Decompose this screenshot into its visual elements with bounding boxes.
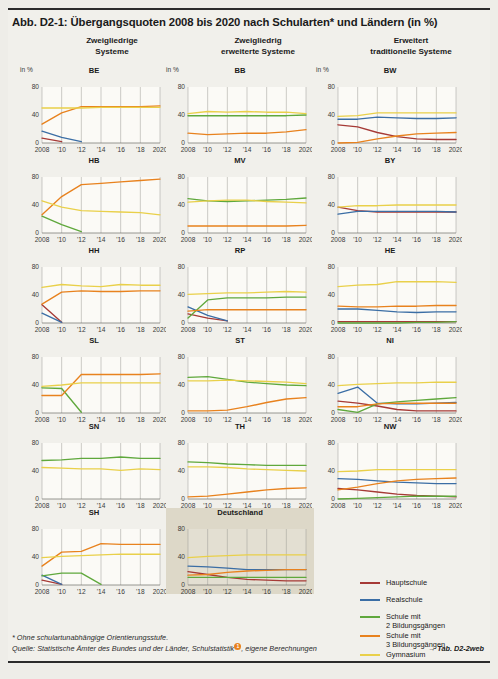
svg-text:2020: 2020 — [449, 236, 462, 243]
chart-panel-by: BY040802008'10'12'14'16'182020 — [316, 156, 464, 242]
chart-panel-th: TH040802008'10'12'14'16'182020 — [166, 422, 314, 508]
svg-text:'14: '14 — [393, 326, 402, 333]
svg-text:80: 80 — [178, 173, 186, 180]
svg-text:2008: 2008 — [35, 146, 50, 153]
svg-text:'10: '10 — [353, 326, 362, 333]
legend-item[interactable]: Realschule — [360, 595, 486, 612]
svg-text:2020: 2020 — [449, 326, 462, 333]
svg-text:2020: 2020 — [299, 236, 312, 243]
svg-text:2020: 2020 — [153, 146, 166, 153]
svg-text:40: 40 — [328, 381, 336, 388]
legend-label: Realschule — [386, 595, 423, 604]
panel-title-be: BE — [20, 66, 168, 75]
panel-title-deutschland: Deutschland — [166, 508, 314, 517]
svg-text:2008: 2008 — [181, 326, 196, 333]
plot-area-by: 040802008'10'12'14'16'182020 — [316, 166, 462, 247]
svg-text:'12: '12 — [373, 146, 382, 153]
svg-text:'18: '18 — [282, 236, 291, 243]
svg-text:40: 40 — [178, 201, 186, 208]
svg-text:'16: '16 — [116, 588, 125, 595]
chart-panel-deutschland: Deutschland040802008'10'12'14'16'182020 — [166, 508, 314, 594]
plot-area-sl: 040802008'10'12'14'16'182020 — [20, 346, 166, 427]
svg-text:'10: '10 — [203, 236, 212, 243]
svg-text:'14: '14 — [97, 588, 106, 595]
panel-grid: BEin %040802008'10'12'14'16'182020BBin %… — [8, 66, 490, 606]
legend-item[interactable]: Schule mit 2 Bildungsgängen — [360, 612, 486, 631]
svg-text:2008: 2008 — [181, 588, 196, 595]
panel-title-th: TH — [166, 422, 314, 431]
svg-text:40: 40 — [178, 381, 186, 388]
svg-text:'10: '10 — [203, 588, 212, 595]
panel-title-sl: SL — [20, 336, 168, 345]
svg-text:40: 40 — [32, 291, 40, 298]
axis-unit-label: in % — [166, 66, 179, 73]
plot-area-nw: 040802008'10'12'14'16'182020 — [316, 432, 462, 513]
plot-area-he: 040802008'10'12'14'16'182020 — [316, 256, 462, 337]
svg-text:80: 80 — [328, 353, 336, 360]
plot-area-bb: 040802008'10'12'14'16'182020 — [166, 76, 312, 157]
svg-text:'16: '16 — [116, 236, 125, 243]
svg-text:40: 40 — [32, 467, 40, 474]
svg-text:2020: 2020 — [449, 146, 462, 153]
svg-text:80: 80 — [32, 173, 40, 180]
svg-text:80: 80 — [32, 353, 40, 360]
svg-text:'16: '16 — [412, 502, 421, 509]
svg-text:2008: 2008 — [331, 502, 346, 509]
svg-text:80: 80 — [178, 263, 186, 270]
svg-text:40: 40 — [32, 553, 40, 560]
svg-text:'18: '18 — [282, 326, 291, 333]
plot-area-bw: 040802008'10'12'14'16'182020 — [316, 76, 462, 157]
svg-text:'12: '12 — [223, 588, 232, 595]
panel-title-he: HE — [316, 246, 464, 255]
panel-title-rp: RP — [166, 246, 314, 255]
plot-area-st: 040802008'10'12'14'16'182020 — [166, 346, 312, 427]
legend-label: Schule mit 2 Bildungsgängen — [386, 612, 445, 630]
svg-text:'18: '18 — [432, 502, 441, 509]
svg-text:40: 40 — [328, 291, 336, 298]
svg-text:'10: '10 — [203, 326, 212, 333]
svg-text:'12: '12 — [223, 236, 232, 243]
svg-text:'12: '12 — [77, 588, 86, 595]
chart-panel-mv: MV040802008'10'12'14'16'182020 — [166, 156, 314, 242]
plot-area-mv: 040802008'10'12'14'16'182020 — [166, 166, 312, 247]
svg-text:40: 40 — [32, 381, 40, 388]
panel-title-sh: SH — [20, 508, 168, 517]
svg-text:2020: 2020 — [153, 588, 166, 595]
svg-text:'16: '16 — [262, 326, 271, 333]
svg-text:40: 40 — [178, 467, 186, 474]
svg-text:80: 80 — [328, 83, 336, 90]
svg-text:2008: 2008 — [35, 326, 50, 333]
legend-swatch-icon — [360, 599, 380, 601]
svg-text:'10: '10 — [353, 146, 362, 153]
svg-text:'14: '14 — [97, 236, 106, 243]
legend-swatch-icon — [360, 582, 380, 584]
svg-text:'18: '18 — [136, 236, 145, 243]
chart-panel-he: HE040802008'10'12'14'16'182020 — [316, 246, 464, 332]
panel-title-hb: HB — [20, 156, 168, 165]
svg-text:40: 40 — [32, 201, 40, 208]
panel-title-sn: SN — [20, 422, 168, 431]
legend-item[interactable]: Hauptschule — [360, 578, 486, 595]
svg-text:80: 80 — [32, 525, 40, 532]
panel-title-mv: MV — [166, 156, 314, 165]
panel-title-hh: HH — [20, 246, 168, 255]
chart-panel-ni: NI040802008'10'12'14'16'182020 — [316, 336, 464, 422]
svg-text:'16: '16 — [262, 588, 271, 595]
svg-text:40: 40 — [178, 291, 186, 298]
table-link[interactable]: → Tab. D2-2web — [428, 643, 484, 655]
svg-text:'14: '14 — [243, 146, 252, 153]
plot-area-deutschland: 040802008'10'12'14'16'182020 — [166, 518, 312, 599]
svg-text:'12: '12 — [373, 326, 382, 333]
chart-panel-sn: SN040802008'10'12'14'16'182020 — [20, 422, 168, 508]
svg-text:2008: 2008 — [331, 146, 346, 153]
svg-text:'10: '10 — [57, 236, 66, 243]
chart-panel-hb: HB040802008'10'12'14'16'182020 — [20, 156, 168, 242]
figure-footer: * Ohne schulartunabhängige Orientierungs… — [12, 632, 486, 655]
chart-panel-hh: HH040802008'10'12'14'16'182020 — [20, 246, 168, 332]
svg-text:80: 80 — [328, 173, 336, 180]
svg-text:'14: '14 — [97, 146, 106, 153]
svg-text:80: 80 — [32, 83, 40, 90]
svg-text:'16: '16 — [116, 326, 125, 333]
column-header-zweigliedrig-erweitert: Zweigliedrig erweiterte Systeme — [188, 36, 328, 57]
panel-title-bw: BW — [316, 66, 464, 75]
